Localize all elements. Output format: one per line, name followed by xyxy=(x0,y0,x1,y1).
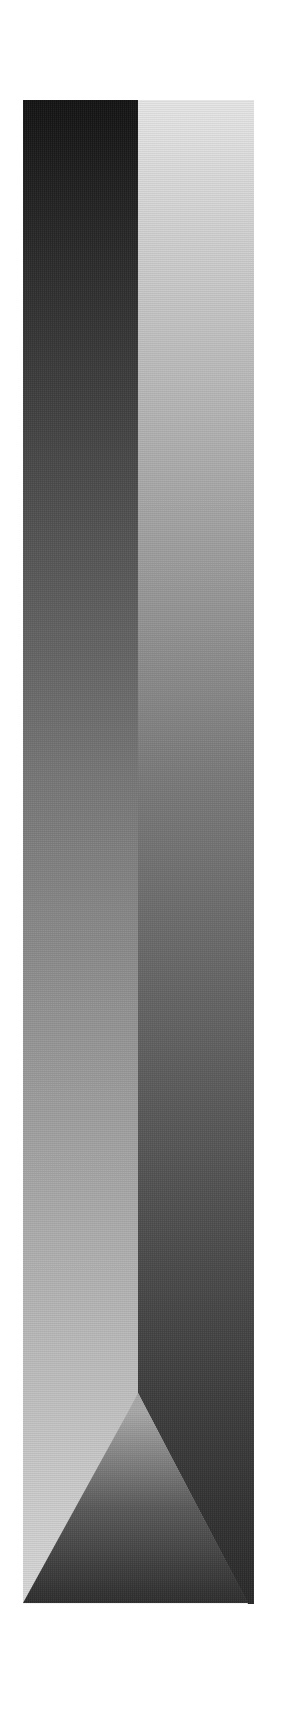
right-gradient-column xyxy=(138,100,254,1604)
opposing-gradient-figure xyxy=(0,0,281,1716)
